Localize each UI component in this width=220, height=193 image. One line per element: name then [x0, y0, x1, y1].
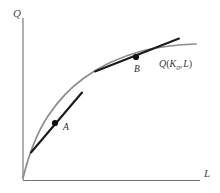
x-axis-label: L — [203, 167, 210, 179]
point-a-marker — [52, 120, 58, 126]
point-a-label: A — [62, 122, 69, 132]
curve-label-comma: , — [180, 58, 183, 69]
figure-canvas: Q L A B Q(K0,L) — [0, 0, 220, 193]
point-b-marker — [133, 54, 139, 60]
production-function-figure: Q L A B Q(K0,L) — [0, 0, 220, 193]
curve-label-close-paren: ) — [189, 58, 192, 70]
y-axis-label: Q — [13, 7, 21, 19]
curve-label: Q(K0,L) — [159, 58, 192, 72]
point-b-label: B — [134, 64, 140, 74]
